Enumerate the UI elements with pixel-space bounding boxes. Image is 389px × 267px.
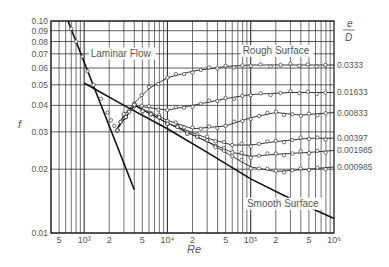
data-point [214, 146, 217, 149]
x-tick-label: 10⁵ [244, 235, 258, 245]
data-point [299, 150, 302, 153]
data-point [316, 114, 319, 117]
x-tick-label: 10³ [78, 235, 91, 245]
data-point [307, 168, 310, 171]
data-point [282, 154, 285, 157]
y-tick-label: 0.10 [31, 16, 48, 26]
data-point [207, 125, 210, 128]
data-point [307, 112, 310, 115]
data-point [279, 63, 282, 66]
data-point [174, 72, 177, 75]
data-point [157, 108, 160, 111]
data-point [282, 141, 285, 144]
data-point [74, 40, 77, 43]
data-point [232, 66, 235, 69]
data-point [274, 169, 277, 172]
data-point [257, 154, 260, 157]
data-point [174, 121, 177, 124]
data-point [157, 116, 160, 119]
series-label: 0.01633 [337, 87, 368, 97]
data-point [214, 140, 217, 143]
y-tick-label: 0.09 [31, 26, 48, 36]
data-point [222, 140, 225, 143]
data-point [207, 66, 210, 69]
data-point [140, 104, 143, 107]
data-point [240, 158, 243, 161]
data-point [299, 114, 302, 117]
data-point [289, 62, 292, 65]
data-point [157, 82, 160, 85]
data-point [279, 91, 282, 94]
data-point [70, 27, 73, 30]
data-point [324, 91, 327, 94]
data-point [249, 145, 252, 148]
y-axis-tick-labels: 0.100.090.080.070.060.050.040.030.020.01 [31, 16, 48, 238]
data-point [266, 152, 269, 155]
data-point [232, 97, 235, 100]
data-point [241, 64, 244, 67]
data-point [186, 132, 189, 135]
legend-title-denominator: D [345, 32, 352, 43]
y-tick-label: 0.06 [31, 63, 48, 73]
y-tick-label: 0.05 [31, 80, 48, 90]
data-point [222, 149, 225, 152]
data-point [182, 126, 185, 129]
legend-labels: 0.03330.016330.008330.003970.0019850.000… [337, 60, 373, 172]
data-point [316, 136, 319, 139]
friction-factor-chart: 510³2510⁴2510⁵2510⁶ 0.100.090.080.070.06… [0, 0, 389, 267]
data-point [224, 124, 227, 127]
data-point [174, 105, 177, 108]
data-point [291, 152, 294, 155]
data-point [199, 68, 202, 71]
data-point [241, 119, 244, 122]
data-point [182, 106, 185, 109]
x-tick-label: 5 [57, 235, 62, 245]
data-point [166, 122, 169, 125]
data-point [113, 124, 116, 127]
data-point [106, 111, 109, 114]
data-point [216, 99, 219, 102]
data-point [315, 65, 318, 68]
annotation-label: Laminar Flow [91, 48, 152, 59]
data-point [324, 63, 327, 66]
data-point [124, 115, 127, 118]
data-point [232, 120, 235, 123]
data-point [274, 152, 277, 155]
data-point [259, 63, 262, 66]
data-point [324, 151, 327, 154]
data-point [249, 117, 252, 120]
series-label: 0.00833 [337, 108, 368, 118]
series-label: 0.0333 [337, 60, 363, 70]
data-point [324, 112, 327, 115]
data-point [266, 111, 269, 114]
data-point [119, 120, 122, 123]
data-point [231, 155, 234, 158]
data-point [306, 63, 309, 66]
data-point [269, 65, 272, 68]
data-point [149, 113, 152, 116]
data-point [92, 83, 95, 86]
series-label: 0.001985 [337, 145, 373, 155]
data-point [249, 64, 252, 67]
data-point [274, 110, 277, 113]
data-point [127, 110, 130, 113]
data-point [196, 135, 199, 138]
y-tick-label: 0.07 [31, 49, 48, 59]
x-tick-label: 2 [273, 235, 278, 245]
data-point [324, 138, 327, 141]
data-point [266, 167, 269, 170]
data-point [316, 149, 319, 152]
data-point [257, 114, 260, 117]
data-point [147, 105, 150, 108]
data-point [240, 142, 243, 145]
data-point [315, 92, 318, 95]
y-axis-label: f [18, 118, 22, 130]
x-tick-label: 10⁶ [327, 235, 341, 245]
data-point [147, 85, 150, 88]
data-point [206, 138, 209, 141]
y-tick-label: 0.04 [31, 100, 48, 110]
data-point [231, 151, 234, 154]
data-point [199, 102, 202, 105]
data-point [99, 97, 102, 100]
data-point [282, 113, 285, 116]
